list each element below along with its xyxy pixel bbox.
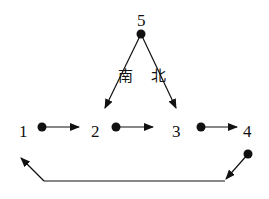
arrow-4-down [226, 154, 248, 179]
node-3-label: 3 [172, 122, 181, 141]
edge-label-south: 南 [118, 67, 133, 85]
node-4-label: 4 [243, 122, 252, 141]
edge-label-north: 北 [151, 67, 166, 85]
node-1-label: 1 [19, 122, 28, 141]
flow-diagram: 5 南 北 1 2 3 4 [0, 0, 269, 199]
node-2-label: 2 [91, 122, 100, 141]
arrow-to-1 [21, 158, 44, 181]
node-5-label: 5 [137, 11, 146, 30]
